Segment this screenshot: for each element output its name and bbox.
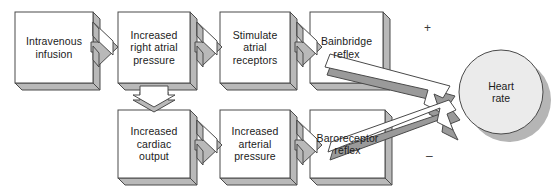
box-stimulate-atrial-receptors <box>220 12 297 90</box>
box-increased-right-atrial-pressure <box>118 12 197 90</box>
arrow-cardiac-output-to-arterial-pressure <box>195 120 222 165</box>
arrow-infusion-to-atrial-pressure <box>91 22 118 67</box>
flowchart-diagram: Intravenous infusion Increased right atr… <box>0 0 552 192</box>
positive-sign: + <box>424 22 431 34</box>
box-increased-arterial-pressure <box>220 110 297 185</box>
negative-sign: – <box>426 150 433 162</box>
arrow-atrial-pressure-to-receptors <box>195 22 222 67</box>
label-heart-rate: Heart rate <box>470 72 532 112</box>
box-increased-cardiac-output <box>118 110 197 185</box>
box-intravenous-infusion <box>15 12 100 90</box>
